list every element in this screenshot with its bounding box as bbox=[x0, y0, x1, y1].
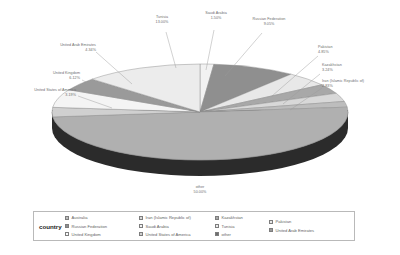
slice-label-iran-pct: 2.83% bbox=[322, 84, 364, 89]
slice-label-russian-federation-pct: 9.05% bbox=[240, 22, 298, 27]
slice-label-russian-federation-name: Russian Federation bbox=[253, 17, 286, 21]
slice-label-uae: United Arab Emirates 4.34% bbox=[20, 43, 96, 53]
slice-label-kazakhstan-pct: 3.24% bbox=[322, 68, 342, 73]
legend-swatch-icon bbox=[215, 224, 220, 229]
slice-label-russian-federation: Russian Federation 9.05% bbox=[240, 17, 298, 27]
slice-label-united-kingdom: United Kingdom 6.12% bbox=[14, 71, 80, 81]
slice-label-other-pct: 50.00% bbox=[176, 190, 224, 195]
slice-label-other: other 50.00% bbox=[176, 185, 224, 195]
legend-item-label: Pakistan bbox=[275, 219, 291, 224]
slice-label-tunisia-pct: 13.00% bbox=[136, 20, 188, 25]
legend-item-label: Iran (Islamic Republic of) bbox=[145, 215, 190, 220]
slice-label-iran-name: Iran (Islamic Republic of) bbox=[322, 79, 364, 83]
legend-item[interactable]: Saudi Arabia bbox=[139, 223, 215, 230]
legend-swatch-icon bbox=[139, 216, 144, 221]
legend-column-4: PakistanUnited Arab Emirates bbox=[269, 218, 314, 233]
legend-column-3: KazakhstanTunisiaother bbox=[215, 214, 269, 237]
legend-item[interactable]: United States of America bbox=[139, 231, 215, 238]
legend-item[interactable]: Russian Federation bbox=[65, 223, 139, 230]
legend-item-label: Kazakhstan bbox=[221, 215, 242, 220]
legend-item-label: United Kingdom bbox=[71, 232, 100, 237]
slice-label-pakistan-pct: 4.85% bbox=[318, 50, 333, 55]
legend-item[interactable]: Tunisia bbox=[215, 223, 269, 230]
pie-top-face bbox=[52, 64, 348, 160]
legend-item-label: Russian Federation bbox=[71, 224, 107, 229]
legend-item[interactable]: other bbox=[215, 231, 269, 238]
legend-item-label: Australia bbox=[71, 215, 87, 220]
legend-item[interactable]: Australia bbox=[65, 214, 139, 221]
legend-item-label: United Arab Emirates bbox=[275, 228, 314, 233]
slice-label-united-kingdom-pct: 6.12% bbox=[14, 76, 80, 81]
legend-swatch-icon bbox=[65, 216, 70, 221]
slice-label-other-name: other bbox=[196, 185, 205, 189]
legend-column-1: AustraliaRussian FederationUnited Kingdo… bbox=[65, 214, 139, 237]
slice-label-tunisia-name: Tunisia bbox=[156, 15, 168, 19]
legend-swatch-icon bbox=[215, 232, 220, 237]
legend-swatch-icon bbox=[139, 224, 144, 229]
slice-label-uae-pct: 4.34% bbox=[20, 48, 96, 53]
legend-item[interactable]: United Kingdom bbox=[65, 231, 139, 238]
slice-label-saudi-arabia-pct: 1.50% bbox=[192, 16, 240, 21]
chart-legend: country AustraliaRussian FederationUnite… bbox=[33, 211, 355, 241]
slice-label-kazakhstan-name: Kazakhstan bbox=[322, 63, 342, 67]
legend-item[interactable]: Pakistan bbox=[269, 218, 314, 225]
legend-swatch-icon bbox=[65, 232, 70, 237]
legend-swatch-icon bbox=[65, 224, 70, 229]
slice-label-saudi-arabia-name: Saudi Arabia bbox=[205, 11, 227, 15]
legend-swatch-icon bbox=[215, 216, 220, 221]
legend-swatch-icon bbox=[139, 232, 144, 237]
legend-swatch-icon bbox=[269, 228, 274, 233]
legend-item-label: United States of America bbox=[145, 232, 190, 237]
legend-item[interactable]: Kazakhstan bbox=[215, 214, 269, 221]
slice-label-saudi-arabia: Saudi Arabia 1.50% bbox=[192, 11, 240, 21]
legend-column-2: Iran (Islamic Republic of)Saudi ArabiaUn… bbox=[139, 214, 215, 237]
slice-label-uae-name: United Arab Emirates bbox=[60, 43, 96, 47]
legend-swatch-icon bbox=[269, 220, 274, 225]
legend-item-label: other bbox=[221, 232, 230, 237]
slice-label-kazakhstan: Kazakhstan 3.24% bbox=[322, 63, 342, 73]
slice-label-united-states-pct: 3.19% bbox=[6, 93, 76, 98]
slice-label-iran: Iran (Islamic Republic of) 2.83% bbox=[322, 79, 364, 89]
legend-item-label: Saudi Arabia bbox=[145, 224, 168, 229]
legend-item[interactable]: Iran (Islamic Republic of) bbox=[139, 214, 215, 221]
legend-item[interactable]: United Arab Emirates bbox=[269, 227, 314, 234]
slice-label-pakistan-name: Pakistan bbox=[318, 45, 333, 49]
slice-label-united-kingdom-name: United Kingdom bbox=[53, 71, 80, 75]
legend-title: country bbox=[37, 223, 65, 230]
slice-label-pakistan: Pakistan 4.85% bbox=[318, 45, 333, 55]
slice-label-tunisia: Tunisia 13.00% bbox=[136, 15, 188, 25]
legend-item-label: Tunisia bbox=[221, 224, 234, 229]
slice-label-united-states-name: United States of America bbox=[34, 88, 76, 92]
slice-label-united-states: United States of America 3.19% bbox=[6, 88, 76, 98]
